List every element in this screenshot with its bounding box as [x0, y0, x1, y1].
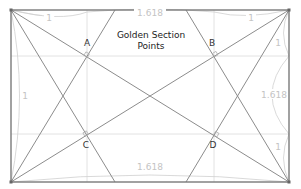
- dimension-label-top-center: 1.618: [137, 8, 163, 18]
- dimension-label-right: 1.618: [261, 90, 287, 100]
- dimension-label-top-left: 1: [46, 13, 52, 23]
- point-label-a: A: [84, 38, 91, 48]
- dimension-label-bottom-center: 1.618: [137, 162, 163, 172]
- dimension-arc-bottom: [11, 175, 289, 182]
- dimension-label-right-upper: 1: [275, 38, 281, 48]
- dimension-label-right-lower: 1: [275, 142, 281, 152]
- corner-dot: [10, 9, 13, 12]
- dimension-arc-left: [11, 10, 20, 182]
- corner-dot: [10, 181, 13, 184]
- point-label-c: C: [83, 140, 89, 150]
- diagram-title-line1: Golden Section: [117, 30, 185, 40]
- dimension-label-top-right: 1: [248, 13, 254, 23]
- corner-dot: [288, 9, 291, 12]
- diagram-title-line2: Points: [137, 41, 164, 51]
- dimension-label-left: 1: [22, 91, 28, 101]
- golden-section-diagram: 1 1.618 1 1 1 1.618 1 1.618 Golden Secti…: [0, 0, 301, 189]
- point-label-d: D: [210, 140, 217, 150]
- corner-dot: [288, 181, 291, 184]
- point-label-b: B: [209, 38, 215, 48]
